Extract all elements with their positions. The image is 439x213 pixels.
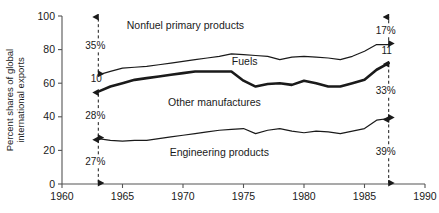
y-axis-title-line1: Percent shares of global [4, 49, 15, 151]
x-tick-label: 1975 [232, 190, 256, 202]
annotation-label: 33% [376, 85, 396, 96]
annotation-label: 28% [85, 110, 105, 121]
x-tick-label: 1985 [353, 190, 377, 202]
series-band-label: Nonfuel primary products [127, 19, 244, 31]
y-tick-label: 20 [43, 144, 55, 156]
y-tick-label: 100 [37, 10, 55, 22]
y-tick-label: 40 [43, 110, 55, 122]
x-tick-label: 1970 [171, 190, 195, 202]
annotation-label: 35% [85, 40, 105, 51]
line-chart: 020406080100 196019651970197519801985199… [0, 0, 439, 213]
annotation-label: 39% [376, 146, 396, 157]
chart-container: 020406080100 196019651970197519801985199… [0, 0, 439, 213]
endpoint-value-label: 11 [382, 45, 393, 56]
x-tick-label: 1990 [413, 190, 437, 202]
annotation-label: 17% [376, 25, 396, 36]
y-axis-title-line2: international exports [15, 57, 26, 143]
y-tick-label: 60 [43, 77, 55, 89]
x-tick-label: 1980 [292, 190, 316, 202]
series-band-label: Fuels [232, 55, 258, 67]
y-axis-title: Percent shares of global international e… [4, 49, 26, 151]
y-tick-label: 0 [49, 178, 55, 190]
series-band-label: Engineering products [170, 146, 269, 158]
series-band-label: Other manufactures [168, 96, 261, 108]
x-tick-label: 1960 [50, 190, 74, 202]
x-tick-label: 1965 [111, 190, 135, 202]
annotation-label: 27% [85, 156, 105, 167]
y-tick-label: 80 [43, 43, 55, 55]
endpoint-value-label: 10 [91, 73, 103, 84]
